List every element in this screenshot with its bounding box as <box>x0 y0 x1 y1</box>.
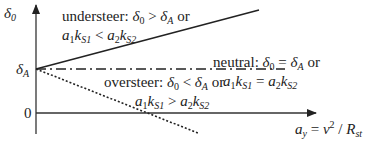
oversteer-label: oversteer: δ0 < δA or a1kS1 > a2kS2 <box>104 74 224 111</box>
svg-text:a1kS1 < a2kS2: a1kS1 < a2kS2 <box>62 27 136 45</box>
steering-diagram: δ0 δA 0 understeer: δ0 > δA or a1kS1 < a… <box>0 0 366 142</box>
svg-text:a1kS1 > a2kS2: a1kS1 > a2kS2 <box>135 93 209 111</box>
svg-text:understeer: δ0 > δA or: understeer: δ0 > δA or <box>62 8 190 26</box>
understeer-label: understeer: δ0 > δA or a1kS1 < a2kS2 <box>62 8 190 45</box>
svg-text:a1kS1 = a2kS2: a1kS1 = a2kS2 <box>223 73 297 91</box>
svg-text:oversteer: δ0 < δA or: oversteer: δ0 < δA or <box>104 74 224 92</box>
y-axis-label: δ0 <box>4 5 16 23</box>
x-axis-label: ay = v2 / Rst <box>295 119 362 139</box>
neutral-label: neutral: δ0 = δA or a1kS1 = a2kS2 <box>213 54 320 91</box>
zero-tick-label: 0 <box>24 105 32 121</box>
delta-a-tick-label: δA <box>16 61 30 79</box>
svg-text:neutral: δ0 = δA or: neutral: δ0 = δA or <box>213 54 320 72</box>
